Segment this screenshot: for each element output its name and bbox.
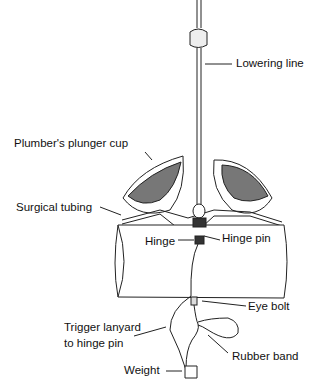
- label-trigger-lanyard: Trigger lanyard: [64, 321, 141, 334]
- label-trigger-lanyard-line2: to hinge pin: [64, 337, 123, 350]
- rubber-band: [186, 305, 198, 368]
- stopper-block: [190, 29, 207, 48]
- label-eye-bolt: Eye bolt: [248, 300, 290, 313]
- left-plunger-cup: [123, 156, 183, 213]
- label-weight: Weight: [124, 364, 160, 377]
- hinge-upper: [193, 218, 206, 227]
- hinge: [195, 236, 204, 244]
- label-plunger-cup: Plumber's plunger cup: [14, 137, 128, 150]
- eye-bolt: [191, 297, 197, 305]
- label-hinge: Hinge: [145, 235, 175, 248]
- label-rubber-band: Rubber band: [232, 350, 299, 363]
- weight: [185, 366, 197, 378]
- eye-ring: [193, 204, 205, 218]
- label-lowering-line: Lowering line: [236, 57, 304, 70]
- label-hinge-pin: Hinge pin: [222, 232, 271, 245]
- label-surgical-tubing: Surgical tubing: [16, 201, 92, 214]
- right-plunger-cup: [213, 160, 272, 213]
